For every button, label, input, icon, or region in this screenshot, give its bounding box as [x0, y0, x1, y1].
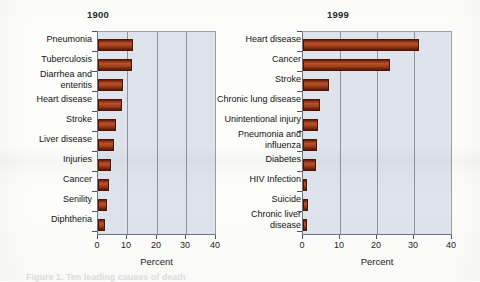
cat-label-injuries: Injuries: [0, 154, 92, 165]
cat-tick-1900-8: [92, 191, 97, 192]
bar-heart-disease: [98, 99, 122, 111]
bar-liver-disease: [98, 139, 114, 151]
cat-label-heart-disease: Heart disease: [0, 94, 92, 105]
cat-label-unintentional-injury: Unintentional injury: [183, 114, 301, 125]
x-label-1900-30: 30: [171, 240, 199, 250]
cat-tick-1900-9: [92, 211, 97, 212]
x-axis-title-1900: Percent: [97, 256, 216, 267]
cat-label-senility: Senility: [0, 194, 92, 205]
cat-tick-1999-8: [297, 191, 302, 192]
bar-stroke: [303, 79, 329, 91]
cat-tick-1900-0: [92, 31, 97, 32]
cat-tick-1900-2: [92, 71, 97, 72]
x-tick-1900-0: [97, 235, 98, 239]
bar-diarrhea: [98, 79, 123, 91]
cat-tick-1999-4: [297, 111, 302, 112]
cat-label-stroke: Stroke: [183, 74, 301, 85]
bars-1999: [303, 32, 451, 234]
cat-tick-1900-6: [92, 151, 97, 152]
x-label-1900-10: 10: [112, 240, 140, 250]
cat-tick-1999-1: [297, 51, 302, 52]
x-tick-1999-0: [302, 235, 303, 239]
bar-injuries: [98, 159, 111, 171]
x-tick-1999-30: [413, 235, 414, 239]
cat-label-heart-disease: Heart disease: [183, 34, 301, 45]
x-tick-1999-20: [376, 235, 377, 239]
bar-senility: [98, 199, 107, 211]
plot-area-1999: [302, 31, 452, 235]
x-label-1999-0: 0: [288, 240, 316, 250]
cat-tick-1999-7: [297, 171, 302, 172]
x-label-1999-30: 30: [399, 240, 427, 250]
cat-tick-1900-1: [92, 51, 97, 52]
chart-panel-1999: 1999: [240, 0, 480, 281]
x-label-1999-40: 40: [437, 240, 465, 250]
cat-tick-1900-7: [92, 171, 97, 172]
x-axis-title-1999: Percent: [302, 256, 452, 267]
cat-label-cancer: Cancer: [183, 54, 301, 65]
x-tick-1900-10: [126, 235, 127, 239]
x-tick-1900-40: [215, 235, 216, 239]
cat-tick-1999-3: [297, 91, 302, 92]
x-label-1999-20: 20: [362, 240, 390, 250]
bar-diabetes: [303, 159, 316, 171]
bar-chronic-lung-disease: [303, 99, 320, 111]
cat-tick-1999-0: [297, 31, 302, 32]
bar-stroke: [98, 119, 116, 131]
cat-label-chronic-liver-disease: Chronic liver disease: [183, 209, 301, 230]
bar-pneumonia-influenza: [303, 139, 317, 151]
cat-tick-1900-5: [92, 131, 97, 132]
x-label-1900-20: 20: [142, 240, 170, 250]
cat-label-pneumonia: Pneumonia: [0, 34, 92, 45]
cat-tick-1900-3: [92, 91, 97, 92]
x-label-1900-0: 0: [83, 240, 111, 250]
cat-tick-1900-10: [92, 231, 97, 232]
cat-tick-1999-10: [297, 231, 302, 232]
bar-cancer: [303, 59, 390, 71]
cat-label-chronic-lung-disease: Chronic lung disease: [183, 94, 301, 105]
cat-tick-1999-6: [297, 151, 302, 152]
cat-label-diphtheria: Diphtheria: [0, 214, 92, 225]
bar-chronic-liver-disease: [303, 219, 307, 231]
cat-label-diabetes: Diabetes: [183, 154, 301, 165]
x-tick-1900-30: [185, 235, 186, 239]
bar-heart-disease: [303, 39, 419, 51]
cat-tick-1999-2: [297, 71, 302, 72]
cat-label-tuberculosis: Tuberculosis: [0, 54, 92, 65]
bar-tuberculosis: [98, 59, 132, 71]
bar-diphtheria: [98, 219, 105, 231]
cat-label-liver-disease: Liver disease: [0, 134, 92, 145]
cat-label-cancer: Cancer: [0, 174, 92, 185]
bar-unintentional-injury: [303, 119, 318, 131]
x-label-1900-40: 40: [201, 240, 229, 250]
figure-caption: Figure 1. Ten leading causes of death: [26, 272, 456, 282]
chart-title-1999: 1999: [218, 9, 458, 20]
x-tick-1999-40: [451, 235, 452, 239]
chart-title-1900: 1900: [0, 9, 218, 20]
bar-hiv-infection: [303, 179, 307, 191]
bar-suicide: [303, 199, 308, 211]
x-label-1999-10: 10: [325, 240, 353, 250]
x-tick-1999-10: [339, 235, 340, 239]
cat-tick-1900-4: [92, 111, 97, 112]
cat-label-suicide: Suicide: [183, 194, 301, 205]
bar-pneumonia: [98, 39, 133, 51]
cat-label-diarrhea: Diarrhea and enteritis: [0, 69, 92, 90]
x-tick-1900-20: [156, 235, 157, 239]
cat-label-stroke: Stroke: [0, 114, 92, 125]
bar-cancer: [98, 179, 109, 191]
cat-label-pneumonia-influenza: Pneumonia and influenza: [183, 129, 301, 150]
cat-label-hiv-infection: HIV Infection: [183, 174, 301, 185]
